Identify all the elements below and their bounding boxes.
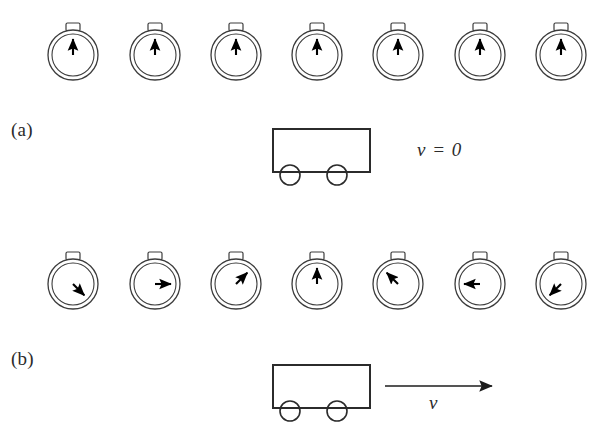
clock-b-5 (373, 252, 423, 309)
clock-a-2 (130, 23, 180, 80)
clock-a-3 (211, 23, 261, 80)
clock-a-5 (373, 23, 423, 80)
clock-a-7 (536, 23, 586, 80)
clock-b-3 (211, 252, 261, 309)
cart-panel-a (273, 129, 370, 185)
clock-a-1 (48, 23, 98, 80)
clock-b-1 (48, 252, 98, 309)
clock-a-6 (455, 23, 505, 80)
velocity-label: v (429, 392, 437, 414)
panel-label-a: (a) (11, 119, 33, 141)
clock-b-2 (130, 252, 180, 309)
velocity-zero-label: v = 0 (417, 139, 462, 161)
clock-row-panel-b (48, 252, 586, 309)
figure-canvas (0, 0, 615, 437)
physics-figure: (a) (b) v = 0 v (0, 0, 615, 437)
clock-b-6 (455, 252, 505, 309)
clock-row-panel-a (48, 23, 586, 80)
cart-b (273, 365, 370, 421)
clock-b-4 (292, 252, 342, 309)
cart-a (273, 129, 370, 185)
clock-b-7 (536, 252, 586, 309)
panel-label-b: (b) (11, 348, 34, 370)
clock-a-4 (292, 23, 342, 80)
cart-panel-b (273, 365, 370, 421)
